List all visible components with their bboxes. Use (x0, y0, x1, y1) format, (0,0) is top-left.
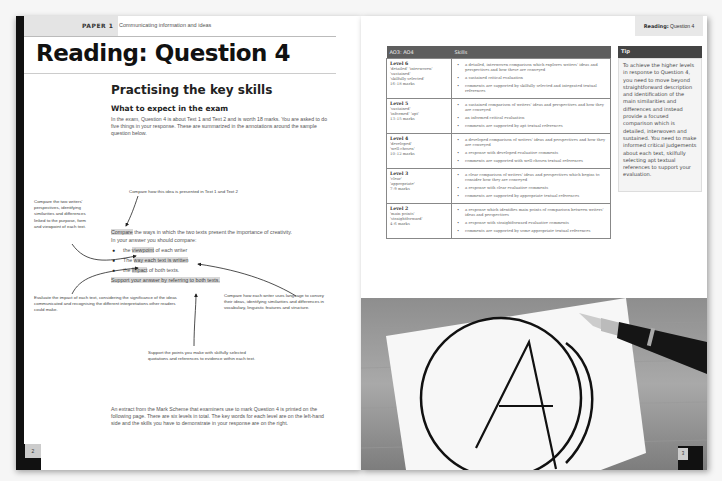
level-marks: 13–15 marks (390, 116, 448, 121)
skills-list: a detailed, interwoven comparison which … (455, 62, 607, 93)
skills-list: a response which identifies main points … (455, 207, 607, 233)
annotation-bottom-left: Evaluate the impact of each text, consid… (34, 295, 184, 314)
bullet-text: the (123, 267, 132, 273)
bullet-text: of each writer (154, 247, 187, 253)
skills-cell: a clear comparison of writers' ideas and… (452, 169, 611, 204)
skills-list: a developed comparison of writers' ideas… (455, 137, 607, 163)
intro-paragraph: In the exam, Question 4 is about Text 1 … (111, 116, 336, 137)
skills-cell: a developed comparison of writers' ideas… (452, 134, 611, 169)
page-number-tab: 3 (678, 446, 703, 470)
skills-cell: a detailed, interwoven comparison which … (452, 59, 611, 99)
tip-box: Tip To achieve the higher levels in resp… (618, 46, 702, 192)
skill-item: comments are supported with well-chosen … (455, 158, 607, 163)
skills-list: a clear comparison of writers' ideas and… (455, 172, 607, 198)
page-number-tab: 2 (16, 444, 41, 470)
table-row: Level 4'developed''well-chosen'10–12 mar… (387, 134, 611, 169)
book-spread: PAPER 1 Communicating information and id… (0, 0, 722, 481)
column-header: Skills (452, 46, 611, 59)
highlight-impact: impact (132, 267, 148, 273)
photo-circled-a (361, 298, 707, 470)
skills-cell: a sustained comparison of writers' ideas… (452, 99, 611, 134)
highlight-compare: Compare (111, 229, 133, 235)
table-row: Level 2'main points''straightforward'4–6… (387, 204, 611, 239)
skill-item: a sustained comparison of writers' ideas… (455, 102, 607, 112)
page-number: 2 (25, 444, 41, 458)
level-cell: Level 4'developed''well-chosen'10–12 mar… (387, 134, 452, 169)
level-cell: Level 5'sustained''informed' 'apt'13–15 … (387, 99, 452, 134)
outro-paragraph: An extract from the Mark Scheme that exa… (111, 406, 331, 427)
divider (24, 36, 336, 37)
bullet-text: of both texts. (147, 267, 179, 273)
sub-title: What to expect in the exam (111, 104, 228, 113)
highlight-support: Support your answer by referring to both… (111, 277, 220, 283)
page-title: Reading: Question 4 (36, 40, 290, 66)
bullet-way-written: The way each text is written (111, 256, 351, 266)
skill-item: an informed critical evaluation (455, 115, 607, 120)
skill-item: a response with developed evaluative com… (455, 150, 607, 155)
annotation-bottom-center: Support the points you make with skilful… (148, 350, 258, 362)
annotation-bottom-right: Compare how each writer uses language to… (224, 293, 329, 312)
skill-item: a response with straightforward evaluati… (455, 220, 607, 225)
bullet-viewpoint: the viewpoint of each writer (111, 246, 351, 256)
skills-cell: a response which identifies main points … (452, 204, 611, 239)
column-header: AO3: AO4 (387, 46, 452, 59)
level-marks: 4–6 marks (390, 221, 448, 226)
level-cell: Level 3'clear''appropriate'7–9 marks (387, 169, 452, 204)
question-bullets: the viewpoint of each writer The way eac… (111, 246, 351, 276)
tip-title: Tip (618, 46, 702, 58)
running-header: Reading: Question 4 (635, 16, 703, 36)
level-cell: Level 6'detailed' 'interwoven''sustained… (387, 59, 452, 99)
table-row: Level 3'clear''appropriate'7–9 marksa cl… (387, 169, 611, 204)
skill-item: a detailed, interwoven comparison which … (455, 62, 607, 72)
page-number: 3 (678, 448, 688, 460)
skill-item: a clear comparison of writers' ideas and… (455, 172, 607, 182)
bullet-impact: the impact of both texts. (111, 266, 351, 276)
right-page: Reading: Question 4 AO3: AO4 Skills Leve… (361, 16, 707, 470)
skill-item: comments are supported by appropriate te… (455, 193, 607, 198)
paper-subtitle: Communicating information and ideas (119, 22, 211, 28)
section-title: Practising the key skills (111, 83, 272, 97)
level-marks: 7–9 marks (390, 186, 448, 191)
skill-item: a response with clear evaluative comment… (455, 185, 607, 190)
bullet-text: the (123, 247, 132, 253)
level-marks: 16–18 marks (390, 81, 448, 86)
annotation-top: Compare how this idea is presented in Te… (129, 189, 329, 195)
table-header-row: AO3: AO4 Skills (387, 46, 611, 59)
skill-item: a developed comparison of writers' ideas… (455, 137, 607, 147)
page-edge-bar (16, 16, 24, 470)
table-row: Level 5'sustained''informed' 'apt'13–15 … (387, 99, 611, 134)
level-marks: 10–12 marks (390, 151, 448, 156)
level-cell: Level 2'main points''straightforward'4–6… (387, 204, 452, 239)
skill-item: comments are supported by some appropria… (455, 228, 607, 233)
tip-body: To achieve the higher levels in response… (618, 58, 702, 192)
question-line-2: In your answer you should compare: (111, 236, 351, 244)
question-line-1: Compare the ways in which the two texts … (111, 228, 351, 236)
skill-item: comments are supported by apt textual re… (455, 123, 607, 128)
annotation-left: Compare the two writers' perspectives, i… (34, 199, 89, 230)
paper-label: PAPER 1 (82, 22, 113, 29)
skill-item: a sustained critical evaluation (455, 75, 607, 80)
sample-question: Compare the ways in which the two texts … (111, 228, 351, 284)
left-page: PAPER 1 Communicating information and id… (16, 16, 361, 470)
header-rest: Question 4 (669, 23, 695, 29)
divider (24, 73, 336, 74)
skills-list: a sustained comparison of writers' ideas… (455, 102, 607, 128)
highlight-way-written: way each text is written (134, 257, 189, 263)
skill-item: a response which identifies main points … (455, 207, 607, 217)
pen-and-paper-image (361, 298, 707, 470)
table-row: Level 6'detailed' 'interwoven''sustained… (387, 59, 611, 99)
highlight-viewpoint: viewpoint (132, 247, 154, 253)
bullet-text: The (123, 257, 134, 263)
running-header: PAPER 1 Communicating information and id… (24, 16, 361, 36)
mark-scheme-table: AO3: AO4 Skills Level 6'detailed' 'inter… (386, 46, 611, 239)
header-bold: Reading: (644, 23, 669, 29)
question-text: the ways in which the two texts present … (133, 229, 292, 235)
skill-item: comments are supported by skilfully sele… (455, 83, 607, 93)
